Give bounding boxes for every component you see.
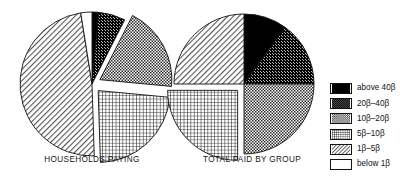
legend-swatch-white — [330, 159, 352, 170]
legend-item: below 1β — [330, 157, 402, 172]
pie-slice — [168, 90, 238, 160]
chart-title-households-paying: HOUSEHOLDS PAYING — [8, 155, 176, 164]
legend-item: 20β–40β — [330, 96, 402, 111]
legend-swatch-dark-checker — [330, 98, 352, 109]
legend-label: below 1β — [357, 160, 390, 168]
chart-title-total-paid-by-group: TOTAL PAID BY GROUP — [168, 155, 336, 164]
pie-chart-households-paying — [20, 12, 172, 163]
legend-item: 5β–10β — [330, 127, 402, 142]
legend-label: 10β–20β — [357, 115, 389, 123]
legend-label: 1β–5β — [357, 145, 380, 153]
pie-slice — [98, 91, 170, 163]
legend: above 40β20β–40β10β–20β5β–10β1β–5βbelow … — [330, 81, 402, 172]
legend-swatch-solid-black — [330, 83, 352, 94]
pie-slice — [174, 14, 244, 84]
legend-item: 10β–20β — [330, 111, 402, 126]
legend-label: 20β–40β — [357, 100, 389, 108]
legend-label: 5β–10β — [357, 130, 385, 138]
pie-slice — [20, 13, 94, 156]
pie-slice — [244, 84, 314, 154]
legend-swatch-diagonal-hatch — [330, 144, 352, 155]
legend-item: 1β–5β — [330, 142, 402, 157]
legend-swatch-medium-checker — [330, 113, 352, 124]
legend-swatch-crosshatch — [330, 129, 352, 140]
pie-chart-total-paid-by-group — [168, 14, 314, 160]
pie-chart-figure: HOUSEHOLDS PAYING TOTAL PAID BY GROUP ab… — [0, 0, 403, 193]
legend-item: above 40β — [330, 81, 402, 96]
legend-label: above 40β — [357, 84, 395, 92]
